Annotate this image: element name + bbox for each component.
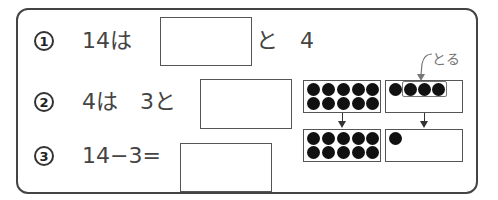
problem-3-text: 14−3= xyxy=(82,143,161,169)
answer-box-1[interactable] xyxy=(160,17,252,66)
ten-frame-top-right xyxy=(385,80,463,113)
problem-1-text: 14は xyxy=(82,28,132,54)
curved-arrow-icon xyxy=(410,50,440,82)
ten-frame-top-left xyxy=(303,80,381,113)
ten-frame-bottom-left xyxy=(303,129,381,162)
answer-box-2[interactable] xyxy=(200,79,292,129)
ten-frame-bottom-right xyxy=(385,129,463,162)
problem-number-2: 2 xyxy=(34,92,54,112)
down-arrow-icon xyxy=(338,121,346,128)
problem-number-3: 3 xyxy=(34,146,54,166)
problem-1-text-after: と 4 xyxy=(256,28,314,54)
problem-2-text: 4は 3と xyxy=(82,89,176,115)
problem-number-1: 1 xyxy=(34,31,54,51)
down-arrow-icon xyxy=(420,121,428,128)
answer-box-3[interactable] xyxy=(180,143,272,192)
